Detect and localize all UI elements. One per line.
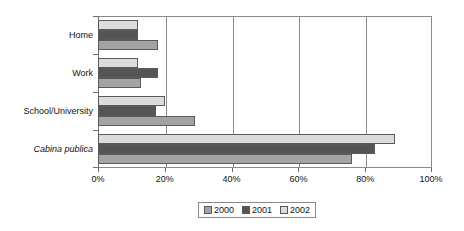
- bar-work-2002: [98, 58, 138, 68]
- bar-group-school-university: [98, 92, 432, 130]
- bar-cabina-publica-2001: [98, 144, 375, 154]
- bar-group-cabina-publica: [98, 130, 432, 168]
- x-axis-label-0: 0%: [91, 174, 104, 185]
- category-label-home: Home: [0, 16, 93, 54]
- x-axis-label-20: 20%: [156, 174, 174, 185]
- legend-item-2001: 2001: [242, 205, 272, 215]
- legend-label: 2000: [214, 205, 234, 215]
- x-axis: 0% 20% 40% 60% 80% 100%: [98, 168, 432, 192]
- bar-slot: [98, 116, 432, 126]
- bar-slot: [98, 20, 432, 30]
- x-axis-label-100: 100%: [419, 174, 442, 185]
- x-axis-tick: [165, 168, 166, 172]
- x-axis-label-80: 80%: [356, 174, 374, 185]
- legend: 2000 2001 2002: [198, 202, 316, 218]
- legend-item-2000: 2000: [204, 205, 234, 215]
- legend-swatch-icon: [242, 206, 250, 214]
- bar-group-home: [98, 16, 432, 54]
- category-label-cabina-publica: Cabina publica: [0, 130, 93, 168]
- bar-slot: [98, 78, 432, 88]
- bar-slot: [98, 40, 432, 50]
- category-label-text: Cabina publica: [33, 144, 93, 155]
- x-axis-tick: [431, 168, 432, 172]
- y-axis-labels: Home Work School/University Cabina publi…: [0, 16, 93, 168]
- bar-school-university-2000: [98, 116, 195, 126]
- bar-work-2001: [98, 68, 158, 78]
- bar-slot: [98, 68, 432, 78]
- bar-school-university-2001: [98, 106, 156, 116]
- bar-slot: [98, 96, 432, 106]
- legend-swatch-icon: [280, 206, 288, 214]
- category-label-text: School/University: [23, 106, 93, 117]
- bar-home-2001: [98, 30, 138, 40]
- legend-label: 2002: [290, 205, 310, 215]
- category-label-school-university: School/University: [0, 92, 93, 130]
- bar-chart: Home Work School/University Cabina publi…: [0, 0, 464, 231]
- x-axis-tick: [298, 168, 299, 172]
- category-label-text: Work: [72, 68, 93, 79]
- x-axis-tick: [232, 168, 233, 172]
- bar-home-2000: [98, 40, 158, 50]
- legend-swatch-icon: [204, 206, 212, 214]
- x-axis-label-40: 40%: [223, 174, 241, 185]
- category-label-work: Work: [0, 54, 93, 92]
- bar-slot: [98, 154, 432, 164]
- bar-cabina-publica-2000: [98, 154, 352, 164]
- bar-slot: [98, 144, 432, 154]
- legend-label: 2001: [252, 205, 272, 215]
- bar-group-work: [98, 54, 432, 92]
- bar-cabina-publica-2002: [98, 134, 395, 144]
- legend-item-2002: 2002: [280, 205, 310, 215]
- bar-work-2000: [98, 78, 141, 88]
- bar-slot: [98, 106, 432, 116]
- bar-school-university-2002: [98, 96, 165, 106]
- x-axis-tick: [98, 168, 99, 172]
- bar-slot: [98, 30, 432, 40]
- x-axis-tick: [365, 168, 366, 172]
- bar-home-2002: [98, 20, 138, 30]
- bar-slot: [98, 58, 432, 68]
- bar-slot: [98, 134, 432, 144]
- bars-layer: [98, 16, 432, 168]
- x-axis-label-60: 60%: [289, 174, 307, 185]
- category-label-text: Home: [69, 30, 93, 41]
